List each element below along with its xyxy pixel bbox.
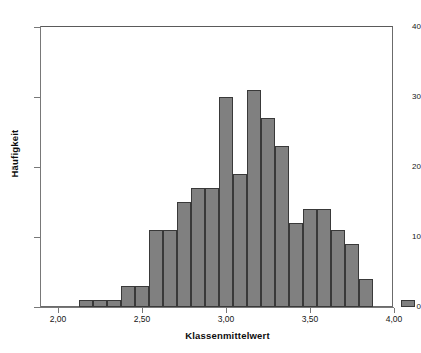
histogram-bar (233, 174, 247, 307)
y-axis-tick-label: 30 (395, 93, 421, 101)
y-axis-tick (34, 237, 40, 238)
histogram-bar (191, 188, 205, 307)
x-axis-tick (142, 308, 143, 313)
x-axis-tick-label: 2,00 (38, 315, 78, 324)
histogram-bar (247, 90, 261, 307)
histogram-bar (345, 244, 359, 307)
x-axis-tick (226, 308, 227, 313)
histogram-bar (303, 209, 317, 307)
bars-layer (0, 0, 421, 353)
histogram-bar (79, 300, 93, 307)
histogram-bar (289, 223, 303, 307)
y-axis-tick (34, 97, 40, 98)
x-axis-tick-label: 2,50 (122, 315, 162, 324)
histogram-bar (205, 188, 219, 307)
histogram-bar (93, 300, 107, 307)
histogram-bar (135, 286, 149, 307)
y-axis-title: Häufigkeit (9, 109, 20, 199)
x-axis-tick (394, 308, 395, 313)
histogram-bar (163, 230, 177, 307)
histogram-bar (261, 118, 275, 307)
y-axis-tick-label: 40 (395, 23, 421, 31)
histogram-bar (317, 209, 331, 307)
histogram-bar (177, 202, 191, 307)
y-axis-tick (34, 167, 40, 168)
histogram-bar (275, 146, 289, 307)
y-axis-tick-label: 20 (395, 163, 421, 171)
x-axis-tick-label: 4,00 (374, 315, 414, 324)
histogram-bar (219, 97, 233, 307)
y-axis-tick-label: 0 (395, 303, 421, 311)
y-axis-tick-label: 10 (395, 233, 421, 241)
x-axis-tick (310, 308, 311, 313)
y-axis-tick (34, 307, 40, 308)
histogram-chart: 010203040 2,002,503,003,504,00 Häufigkei… (0, 0, 421, 353)
y-axis-tick (34, 27, 40, 28)
histogram-bar (121, 286, 135, 307)
x-axis-title: Klassenmittelwert (0, 330, 421, 341)
x-axis-tick-label: 3,50 (290, 315, 330, 324)
x-axis-tick-label: 3,00 (206, 315, 246, 324)
x-axis-tick (58, 308, 59, 313)
histogram-bar (359, 279, 373, 307)
histogram-bar (149, 230, 163, 307)
histogram-bar (107, 300, 121, 307)
histogram-bar (331, 230, 345, 307)
